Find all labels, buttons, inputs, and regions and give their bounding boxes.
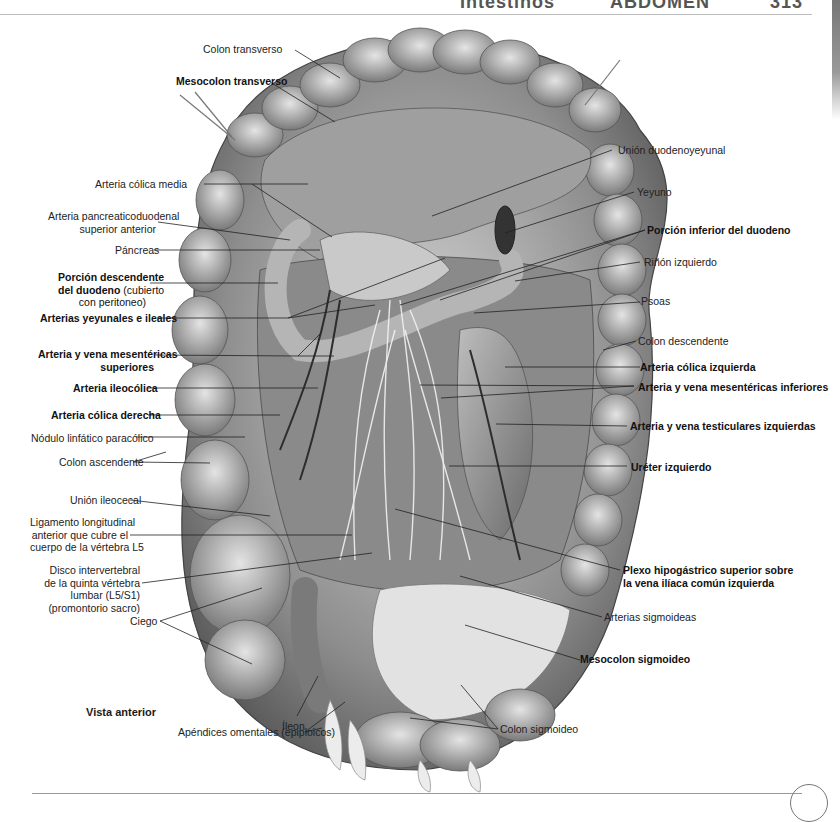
label-arteria-pancreaticoduodenal-line1: Arteria pancreaticoduodenal bbox=[48, 210, 179, 222]
label-union-ileocecal: Unión ileocecal bbox=[70, 494, 141, 507]
label-colon-descendente: Colon descendente bbox=[638, 335, 729, 348]
label-porcion-descendente-line3: con peritoneo) bbox=[79, 296, 146, 308]
label-mesocolon-transverso: Mesocolon transverso bbox=[176, 75, 287, 88]
label-plexo-hipogastrico: Plexo hipogástrico superior sobre la ven… bbox=[623, 564, 793, 589]
label-disco-line2: de la quinta vértebra bbox=[44, 577, 140, 589]
page-number-circle bbox=[790, 784, 828, 822]
label-pancreas: Páncreas bbox=[115, 244, 159, 257]
label-union-duodenoyeyunal: Unión duodenoyeyunal bbox=[618, 144, 725, 157]
label-porcion-descendente-line2b: (cubierto bbox=[120, 284, 164, 296]
label-psoas: Psoas bbox=[641, 295, 670, 308]
footer-rule bbox=[32, 793, 802, 794]
yeyuno-opening bbox=[495, 206, 515, 254]
label-colon-sigmoideo: Colon sigmoideo bbox=[500, 723, 578, 736]
label-ligamento-line1: Ligamento longitudinal bbox=[30, 516, 135, 528]
label-plexo-line2: la vena ilíaca común izquierda bbox=[623, 577, 774, 589]
label-arteria-vena-mesentericas-sup: Arteria y vena mesentéricas superiores bbox=[38, 348, 154, 373]
label-arteria-vena-mes-sup-line1: Arteria y vena mesentéricas bbox=[38, 348, 178, 360]
label-disco-line4: (promontorio sacro) bbox=[48, 602, 140, 614]
label-apendices-omentales: Apéndices omentales (epiploicos) bbox=[178, 726, 335, 739]
label-arteria-pancreaticoduodenal: Arteria pancreaticoduodenal superior ant… bbox=[48, 210, 156, 235]
label-disco-intervertebral: Disco intervertebral de la quinta vérteb… bbox=[40, 564, 140, 614]
label-ureter-izquierdo: Uréter izquierdo bbox=[631, 461, 712, 474]
label-porcion-inferior-duodeno: Porción inferior del duodeno bbox=[647, 224, 791, 237]
label-colon-ascendente: Colon ascendente bbox=[59, 456, 144, 469]
view-caption: Vista anterior bbox=[86, 706, 156, 718]
label-ligamento-line3: cuerpo de la vértebra L5 bbox=[30, 541, 144, 553]
label-arteria-vena-mesentericas-inf: Arteria y vena mesentéricas inferiores bbox=[638, 381, 828, 394]
label-arterias-sigmoideas: Arterias sigmoideas bbox=[604, 611, 696, 624]
label-colon-transverso: Colon transverso bbox=[203, 43, 282, 56]
label-plexo-line1: Plexo hipogástrico superior sobre bbox=[623, 564, 793, 576]
label-mesocolon-sigmoideo: Mesocolon sigmoideo bbox=[580, 653, 690, 666]
label-disco-line1: Disco intervertebral bbox=[50, 564, 140, 576]
label-yeyuno: Yeyuno bbox=[637, 186, 672, 199]
label-ligamento-line2: anterior que cubre el bbox=[32, 529, 128, 541]
label-arteria-vena-mes-sup-line2: superiores bbox=[100, 361, 154, 373]
label-arteria-pancreaticoduodenal-line2: superior anterior bbox=[80, 223, 156, 235]
label-arteria-colica-derecha: Arteria cólica derecha bbox=[51, 409, 161, 422]
label-arteria-colica-media: Arteria cólica media bbox=[95, 178, 187, 191]
label-porcion-descendente-line1: Porción descendente bbox=[58, 271, 164, 283]
label-ligamento-longitudinal: Ligamento longitudinal anterior que cubr… bbox=[30, 516, 128, 554]
label-rinon-izquierdo: Riñón izquierdo bbox=[644, 256, 717, 269]
label-arteria-colica-izquierda: Arteria cólica izquierda bbox=[640, 361, 756, 374]
label-porcion-descendente: Porción descendente del duodeno (cubiert… bbox=[58, 271, 146, 309]
label-ciego: Ciego bbox=[130, 615, 157, 628]
label-arteria-ileocolica: Arteria ileocólica bbox=[73, 382, 158, 395]
label-nodulo-linfatico: Nódulo linfático paracólico bbox=[31, 432, 154, 445]
label-arterias-yeyunales: Arterias yeyunales e ileales bbox=[40, 312, 177, 325]
label-arteria-vena-testiculares: Arteria y vena testiculares izquierdas bbox=[630, 420, 816, 433]
label-disco-line3: lumbar (L5/S1) bbox=[71, 589, 140, 601]
label-porcion-descendente-line2: del duodeno bbox=[58, 284, 120, 296]
